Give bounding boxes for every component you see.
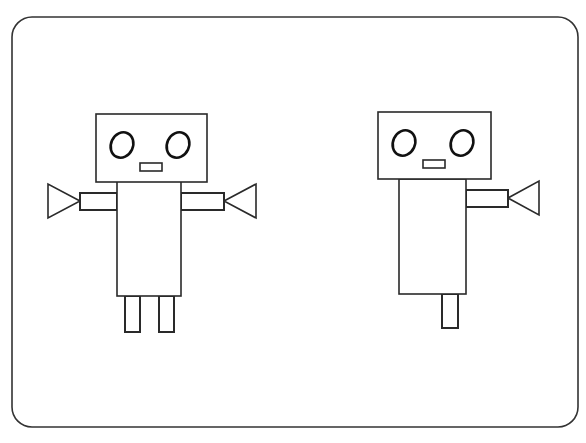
robot-right xyxy=(378,112,539,328)
arm-left-hand-triangle xyxy=(48,184,80,218)
robots-group xyxy=(48,112,539,332)
arm-right-hand-triangle xyxy=(224,184,256,218)
mouth xyxy=(423,160,445,168)
mouth xyxy=(140,163,162,171)
body xyxy=(117,181,181,296)
arm-left xyxy=(80,193,117,210)
arm-right xyxy=(181,193,224,210)
robot-drawing-canvas xyxy=(0,0,586,443)
head xyxy=(96,114,207,182)
arm-right-hand-triangle xyxy=(508,181,539,215)
rounded-frame-border xyxy=(12,17,578,427)
robot-left xyxy=(48,114,256,332)
leg-1 xyxy=(442,294,458,328)
leg-2 xyxy=(159,296,174,332)
arm-right xyxy=(466,190,508,207)
leg-1 xyxy=(125,296,140,332)
body xyxy=(399,179,466,294)
